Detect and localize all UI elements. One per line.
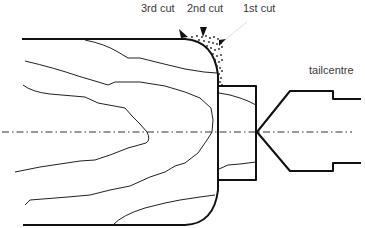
- tailcentre: [257, 91, 361, 171]
- turning-diagram: [0, 0, 365, 228]
- grain-line: [219, 93, 256, 105]
- arrow-3rd-cut: [179, 29, 188, 38]
- label-tailcentre: tailcentre: [309, 64, 354, 76]
- label-3rd-cut: 3rd cut: [141, 2, 175, 14]
- grain-line: [23, 85, 147, 132]
- grain-line: [25, 61, 213, 132]
- grain-line: [219, 162, 256, 169]
- grain-line: [113, 195, 215, 225]
- grain-line: [85, 40, 217, 73]
- arrow-1st-cut: [219, 39, 226, 46]
- label-1st-cut: 1st cut: [243, 2, 275, 14]
- leader-1st-cut: [226, 22, 247, 39]
- grain-line: [15, 132, 149, 172]
- collar-block: [218, 86, 256, 180]
- label-2nd-cut: 2nd cut: [187, 2, 223, 14]
- grain-line: [25, 132, 212, 205]
